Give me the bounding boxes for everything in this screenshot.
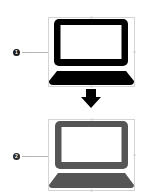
step-badge-1: 1 — [13, 49, 20, 56]
laptop-icon — [48, 17, 135, 87]
step-1: 1 — [0, 0, 149, 95]
leader-line-1 — [22, 52, 48, 53]
laptop-base — [49, 71, 134, 85]
step-2: 2 — [0, 102, 149, 194]
laptop-screen-display — [62, 127, 122, 162]
laptop-base — [49, 173, 134, 188]
laptop-screen-display — [61, 25, 122, 59]
step-badge-2: 2 — [13, 153, 20, 160]
laptop-icon — [48, 119, 135, 191]
leader-line-2 — [22, 156, 48, 157]
